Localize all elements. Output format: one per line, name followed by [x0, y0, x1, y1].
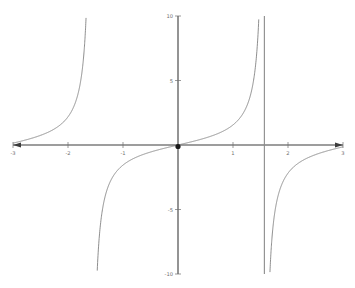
tangent-function-plot: -3 -2 -1 1 2 3 10 5 -5 -10: [0, 0, 355, 288]
y-tick-label-neg10: -10: [165, 271, 173, 277]
y-tick-label-neg5: -5: [168, 207, 173, 213]
x-tick-label-neg1: -1: [120, 150, 125, 156]
y-tick-label-pos5: 5: [170, 78, 173, 84]
x-tick-label-pos3: 3: [341, 150, 344, 156]
x-tick-label-neg3: -3: [10, 150, 15, 156]
origin-point-marker: [175, 144, 180, 149]
y-tick-label-pos10: 10: [166, 13, 173, 19]
x-tick-label-pos1: 1: [231, 150, 234, 156]
x-tick-label-neg2: -2: [65, 150, 70, 156]
x-tick-label-pos2: 2: [286, 150, 289, 156]
tan-branch-right: [270, 147, 343, 272]
tan-branch-left: [13, 18, 86, 143]
chart-canvas: -3 -2 -1 1 2 3 10 5 -5 -10: [0, 0, 355, 288]
